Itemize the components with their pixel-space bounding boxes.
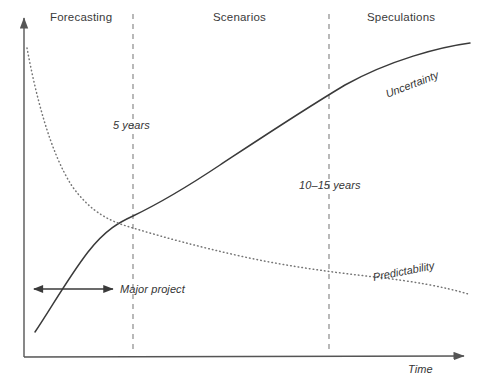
chart-canvas [0,0,480,386]
zone-label-forecasting: Forecasting [50,11,112,23]
annotation-major-project: Major project [120,283,185,295]
x-axis-label: Time [408,363,433,375]
x-axis [24,356,464,357]
annotation-10-15-years: 10–15 years [299,179,361,191]
zone-label-speculations: Speculations [367,11,435,23]
forecasting-uncertainty-chart: Forecasting Scenarios Speculations 5 yea… [0,0,480,386]
annotation-5-years: 5 years [113,119,150,131]
zone-label-scenarios: Scenarios [213,11,266,23]
